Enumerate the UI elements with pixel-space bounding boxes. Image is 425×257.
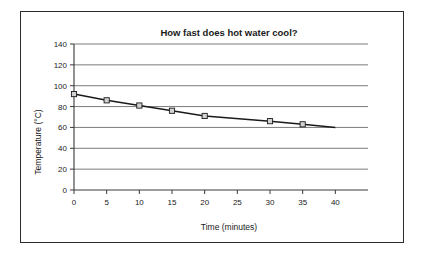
x-tick-label: 10	[135, 198, 144, 207]
x-tick-label: 40	[331, 198, 340, 207]
data-markers	[71, 91, 305, 126]
x-tick-label: 30	[266, 198, 275, 207]
chart-title: How fast does hot water cool?	[160, 27, 297, 38]
figure-frame: How fast does hot water cool? Temperatur…	[20, 11, 404, 243]
y-tick-label: 20	[58, 165, 67, 174]
y-tick-label: 40	[58, 144, 67, 153]
data-point-marker	[104, 98, 109, 103]
chart-plot: How fast does hot water cool? Temperatur…	[21, 12, 402, 241]
y-tick-label: 120	[54, 61, 68, 70]
data-point-marker	[300, 122, 305, 127]
x-tick-label: 5	[104, 198, 109, 207]
x-tick-label: 20	[200, 198, 209, 207]
x-tick-label: 25	[233, 198, 242, 207]
data-series-line	[74, 94, 335, 127]
x-axis-ticks: 0510152025303540	[72, 190, 341, 207]
gridlines	[74, 44, 368, 169]
y-tick-label: 140	[54, 40, 68, 49]
y-tick-label: 60	[58, 123, 67, 132]
x-axis-title: Time (minutes)	[201, 222, 258, 232]
y-axis-title: Temperature (°C)	[33, 109, 43, 174]
y-tick-label: 100	[54, 82, 68, 91]
y-axis-ticks: 020406080100120140	[54, 40, 74, 195]
data-point-marker	[71, 91, 76, 96]
data-point-marker	[169, 108, 174, 113]
data-point-marker	[137, 103, 142, 108]
y-tick-label: 0	[63, 186, 68, 195]
x-tick-label: 35	[298, 198, 307, 207]
data-point-marker	[202, 113, 207, 118]
data-point-marker	[267, 119, 272, 124]
x-tick-label: 0	[72, 198, 77, 207]
x-tick-label: 15	[168, 198, 177, 207]
y-tick-label: 80	[58, 103, 67, 112]
